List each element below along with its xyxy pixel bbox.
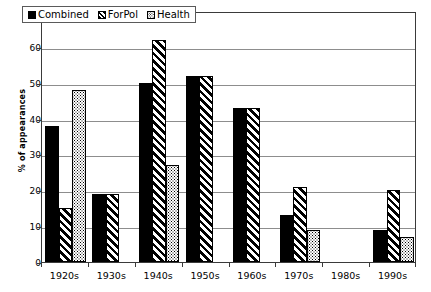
bar-health-1970s bbox=[307, 230, 321, 262]
x-axis-tick-label: 1970s bbox=[275, 271, 322, 281]
x-axis-tick-label: 1930s bbox=[88, 271, 135, 281]
y-axis-tick-label: 20 bbox=[7, 187, 41, 196]
bar-forpol-1970s bbox=[293, 187, 307, 262]
x-axis-tick-mark bbox=[41, 263, 42, 267]
y-axis-tick-label: 40 bbox=[7, 115, 41, 124]
bar-forpol-1920s bbox=[59, 208, 73, 262]
bar-combined-1950s bbox=[186, 76, 200, 262]
legend-swatch-forpol-icon bbox=[98, 11, 106, 19]
bar-group bbox=[326, 13, 367, 262]
legend-swatch-health-icon bbox=[147, 11, 155, 19]
bar-group bbox=[186, 13, 227, 262]
legend-label-health: Health bbox=[157, 9, 190, 20]
bar-group bbox=[280, 13, 321, 262]
bar-combined-1970s bbox=[280, 215, 294, 262]
bars-layer bbox=[42, 13, 415, 262]
bar-forpol-1950s bbox=[199, 76, 213, 262]
x-axis-tick-mark bbox=[369, 263, 370, 267]
bar-combined-1990s bbox=[373, 230, 387, 262]
x-axis-tick-mark bbox=[275, 263, 276, 267]
x-axis-tick-label: 1940s bbox=[135, 271, 182, 281]
x-axis-tick-label: 1990s bbox=[369, 271, 416, 281]
bar-forpol-1960s bbox=[246, 108, 260, 262]
x-axis-tick-mark bbox=[229, 263, 230, 267]
bar-chart: % of appearances 010203040506070 Combine… bbox=[0, 0, 431, 292]
legend-item-health: Health bbox=[147, 9, 190, 20]
bar-group bbox=[45, 13, 86, 262]
y-axis-tick-label: 0 bbox=[7, 259, 41, 268]
bar-group bbox=[233, 13, 274, 262]
bar-group bbox=[373, 13, 414, 262]
plot-area bbox=[41, 12, 416, 263]
bar-combined-1960s bbox=[233, 108, 247, 262]
x-axis-tick-mark bbox=[415, 263, 416, 267]
x-axis-ticks bbox=[41, 263, 416, 268]
x-axis-tick-label: 1920s bbox=[41, 271, 88, 281]
x-axis-tick-label: 1960s bbox=[229, 271, 276, 281]
bar-forpol-1990s bbox=[387, 190, 401, 262]
bar-forpol-1930s bbox=[106, 194, 120, 262]
x-axis-tick-mark bbox=[135, 263, 136, 267]
legend-label-forpol: ForPol bbox=[108, 9, 138, 20]
y-axis-tick-label: 30 bbox=[7, 151, 41, 160]
y-axis-tick-label: 10 bbox=[7, 223, 41, 232]
bar-health-1990s bbox=[400, 237, 414, 262]
bar-health-1940s bbox=[166, 165, 180, 262]
y-axis-ticks: 010203040506070 bbox=[0, 12, 41, 263]
bar-combined-1920s bbox=[45, 126, 59, 262]
legend-item-forpol: ForPol bbox=[98, 9, 138, 20]
x-axis-tick-mark bbox=[182, 263, 183, 267]
x-axis-tick-label: 1980s bbox=[322, 271, 369, 281]
bar-group bbox=[139, 13, 180, 262]
y-axis-tick-label: 50 bbox=[7, 79, 41, 88]
x-axis-tick-mark bbox=[88, 263, 89, 267]
bar-combined-1940s bbox=[139, 83, 153, 262]
x-axis-tick-label: 1950s bbox=[182, 271, 229, 281]
bar-group bbox=[92, 13, 133, 262]
legend-item-combined: Combined bbox=[28, 9, 89, 20]
bar-health-1920s bbox=[72, 90, 86, 262]
bar-combined-1930s bbox=[92, 194, 106, 262]
bar-forpol-1940s bbox=[152, 40, 166, 262]
y-axis-tick-label: 60 bbox=[7, 43, 41, 52]
x-axis-tick-mark bbox=[322, 263, 323, 267]
legend-label-combined: Combined bbox=[38, 9, 89, 20]
chart-legend: Combined ForPol Health bbox=[22, 6, 196, 23]
legend-swatch-combined-icon bbox=[28, 11, 36, 19]
